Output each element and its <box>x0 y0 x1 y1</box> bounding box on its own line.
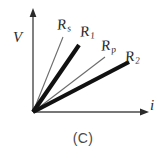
y-axis-arrowhead <box>30 8 37 17</box>
figure-panel: V i Rs R1 Rp R2 (C) <box>0 0 166 158</box>
y-axis-label: V <box>13 30 22 45</box>
series-label-r1: R1 <box>79 23 94 39</box>
figure-caption: (C) <box>0 130 166 146</box>
series-label-r2: R2 <box>124 48 139 64</box>
series-label-r1-base: R <box>79 23 90 40</box>
series-label-rp-base: R <box>100 37 111 54</box>
series-label-rs-base: R <box>56 16 67 33</box>
ray-r2 <box>33 62 129 112</box>
series-label-rp: Rp <box>100 37 115 53</box>
series-label-r2-base: R <box>124 48 135 65</box>
x-axis-arrowhead <box>140 109 149 116</box>
x-axis-label: i <box>150 98 154 113</box>
series-label-rs: Rs <box>56 16 70 32</box>
